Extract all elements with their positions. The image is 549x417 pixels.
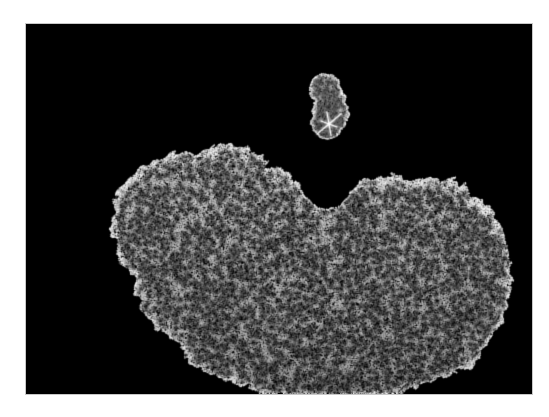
molecular-render-panel <box>26 24 532 394</box>
figure-root <box>0 0 549 417</box>
molecular-surface-canvas <box>26 24 532 394</box>
